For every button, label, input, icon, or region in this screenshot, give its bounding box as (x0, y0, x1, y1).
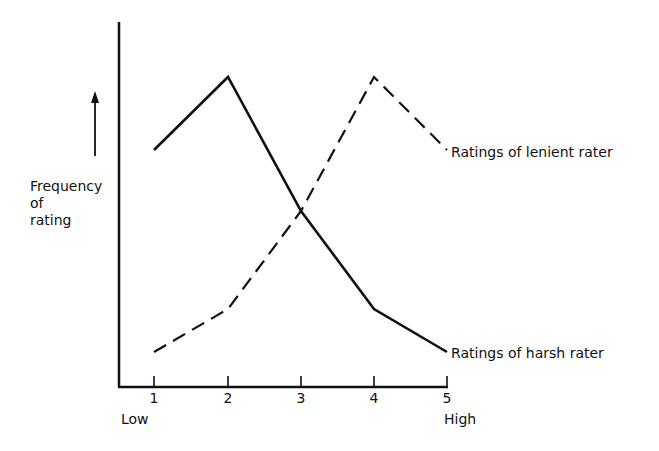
x-axis-low-label: Low (121, 411, 149, 428)
x-tick-label-4: 4 (370, 390, 379, 406)
y-axis-label-line-2: of (30, 195, 102, 212)
x-tick-label-3: 3 (297, 390, 306, 406)
legend-harsh-rater: Ratings of harsh rater (451, 345, 604, 362)
y-axis-label-line-3: rating (30, 212, 102, 229)
series-lenient-rater-line (154, 77, 447, 352)
x-tick-label-2: 2 (224, 390, 233, 406)
legend-lenient-rater: Ratings of lenient rater (451, 144, 613, 161)
series-harsh-rater-line (154, 77, 447, 352)
x-tick-label-1: 1 (150, 390, 159, 406)
x-tick-label-5: 5 (443, 390, 452, 406)
y-axis-label-line-1: Frequency (30, 178, 102, 195)
y-axis-label: Frequency of rating (30, 178, 102, 229)
x-ticks (154, 376, 447, 387)
up-arrow-icon (91, 91, 99, 156)
x-axis-high-label: High (444, 411, 476, 428)
